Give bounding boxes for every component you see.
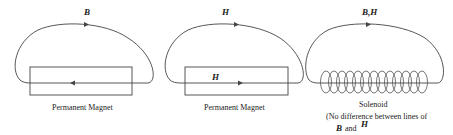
field-label-h: H <box>221 7 230 17</box>
field-line-h <box>165 24 303 83</box>
magnet-rect <box>185 67 288 95</box>
arrow-right-icon <box>366 22 371 27</box>
field-line-b <box>15 24 153 83</box>
note-h: H <box>360 119 369 129</box>
field-label-bh: B,H <box>361 7 378 17</box>
field-line-bh <box>306 24 444 83</box>
note-and: and <box>345 124 357 133</box>
arrow-right-icon <box>238 81 243 86</box>
caption-permanent-magnet: Permanent Magnet <box>204 103 265 112</box>
solenoid-coil-icon <box>321 71 428 93</box>
arrow-right-icon <box>234 22 239 27</box>
note-line-1: (No difference between lines of <box>326 112 427 121</box>
panel-permanent-magnet-h: H H Permanent Magnet <box>165 7 303 112</box>
caption-solenoid: Solenoid <box>359 100 387 109</box>
caption-permanent-magnet: Permanent Magnet <box>52 103 113 112</box>
panel-permanent-magnet-b: B Permanent Magnet <box>15 7 153 112</box>
arrow-left-icon <box>70 81 75 86</box>
note-b: B <box>335 123 342 133</box>
field-label-b: B <box>83 7 90 17</box>
arrow-right-icon <box>84 22 89 27</box>
inner-label-h: H <box>211 72 220 82</box>
magnet-rect <box>30 67 132 95</box>
panel-solenoid: B,H Solenoid (No difference between line… <box>306 7 444 133</box>
